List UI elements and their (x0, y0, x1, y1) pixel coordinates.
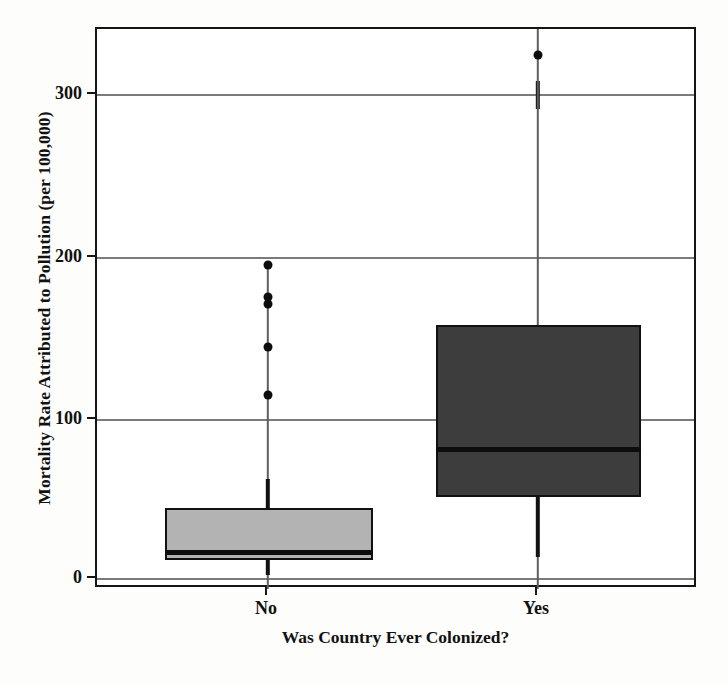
y-tick-label-300: 300 (26, 83, 82, 104)
y-tick-label-200: 200 (26, 246, 82, 267)
box-plot-figure: Mortality Rate Attributed to Pollution (… (0, 0, 728, 684)
median-line-no (165, 550, 373, 555)
whisker-no-lower-cap (266, 559, 270, 575)
whisker-no-upper-cap (266, 479, 270, 509)
outlier-point-yes-1 (534, 51, 543, 60)
plot-area (95, 27, 696, 587)
x-axis-title: Was Country Ever Colonized? (95, 627, 696, 648)
gridline-0 (97, 578, 694, 580)
outlier-point-no-5 (264, 391, 273, 400)
box-yes (436, 325, 641, 497)
whisker-no-lower-stem (267, 575, 269, 589)
y-axis-title: Mortality Rate Attributed to Pollution (… (22, 28, 66, 588)
y-tick-label-100: 100 (26, 408, 82, 429)
outlier-point-no-3 (264, 300, 273, 309)
x-tick-label-yes: Yes (523, 598, 549, 619)
outlier-point-no-1 (264, 261, 273, 270)
whisker-yes-lower-cap (536, 497, 540, 557)
x-tick-label-no: No (255, 598, 277, 619)
whisker-yes-lower-stem (537, 557, 539, 589)
y-tick-label-0: 0 (26, 567, 82, 588)
outlier-point-no-4 (264, 343, 273, 352)
median-line-yes (436, 447, 641, 452)
gridline-300 (97, 94, 694, 96)
whisker-yes-upper-stem (537, 29, 539, 325)
gridline-200 (97, 257, 694, 259)
